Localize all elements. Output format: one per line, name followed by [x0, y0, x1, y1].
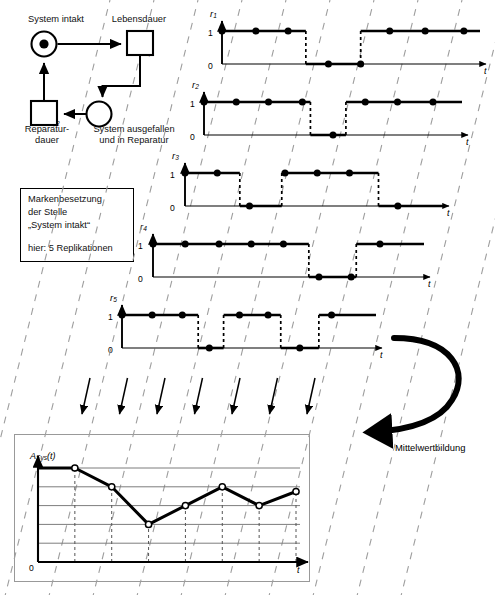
asys-data-marker	[145, 521, 151, 527]
vector-layer	[0, 0, 495, 595]
r5-plot	[119, 305, 383, 352]
r1-sample-marker	[252, 28, 259, 35]
r3-sample-marker	[346, 170, 353, 177]
r1-sample-marker	[357, 61, 364, 68]
r4-plot	[150, 234, 431, 281]
place-intact-token	[39, 39, 48, 48]
asys-data-marker	[293, 488, 299, 494]
guide-dash-line	[400, 0, 495, 595]
downward-arrow	[232, 378, 240, 414]
r4-sample-marker	[248, 241, 255, 248]
r2-sample-marker	[299, 99, 306, 106]
transition-life-box	[127, 31, 153, 55]
r1-sample-marker	[219, 28, 226, 35]
r3-sample-marker	[314, 170, 321, 177]
asys-chart	[38, 456, 308, 562]
r1-sample-marker	[422, 28, 429, 35]
r5-sample-marker	[265, 312, 272, 319]
guide-dash-line	[356, 0, 495, 595]
downward-arrow	[120, 378, 128, 414]
r2-sample-marker	[429, 99, 436, 106]
r1-sample-marker	[285, 28, 292, 35]
r2-sample-marker	[394, 99, 401, 106]
r1-sample-marker	[386, 28, 393, 35]
r2-sample-marker	[362, 99, 369, 106]
arc-life-to-failed	[103, 56, 141, 97]
downward-arrow-group	[82, 378, 315, 414]
r4-sample-marker	[182, 241, 189, 248]
asys-data-marker	[109, 484, 115, 490]
transition-repair-box	[31, 101, 57, 125]
r5-sample-marker	[149, 312, 156, 319]
r5-sample-marker	[179, 312, 186, 319]
r2-sample-marker	[330, 132, 337, 139]
asys-data-marker	[219, 484, 225, 490]
r3-sample-marker	[246, 203, 253, 210]
r2-sample-marker	[233, 99, 240, 106]
r4-sample-marker	[348, 274, 355, 281]
r3-sample-marker	[214, 170, 221, 177]
r3-sample-marker	[281, 170, 288, 177]
r4-sample-marker	[280, 241, 287, 248]
r1-sample-marker	[460, 28, 467, 35]
r4-sample-marker	[315, 274, 322, 281]
downward-arrow	[307, 378, 315, 414]
r3-sample-marker	[394, 203, 401, 210]
r1-sample-marker	[325, 61, 332, 68]
r3-sample-marker	[182, 170, 189, 177]
r4-sample-marker	[376, 241, 383, 248]
r2-sample-marker	[201, 99, 208, 106]
place-failed-circle	[87, 102, 112, 127]
r4-sample-marker	[216, 241, 223, 248]
asys-data-marker	[256, 503, 262, 509]
figure-root: System intakt Lebensdauer τin,L τin,R Re…	[0, 0, 495, 595]
r4-sample-marker	[150, 241, 157, 248]
r5-sample-marker	[236, 312, 243, 319]
r5-sample-marker	[206, 345, 213, 352]
downward-arrow	[157, 378, 165, 414]
r5-sample-marker	[328, 312, 335, 319]
guide-dash-line	[312, 0, 462, 595]
asys-data-marker	[72, 465, 78, 471]
r3-plot	[182, 163, 450, 210]
r5-sample-marker	[119, 312, 126, 319]
r2-sample-marker	[265, 99, 272, 106]
r5-sample-marker	[296, 345, 303, 352]
downward-arrow	[270, 378, 278, 414]
downward-arrow	[195, 378, 203, 414]
asys-data-marker	[182, 503, 188, 509]
r1-plot	[219, 21, 487, 68]
downward-arrow	[82, 378, 90, 414]
r2-plot	[201, 92, 469, 139]
